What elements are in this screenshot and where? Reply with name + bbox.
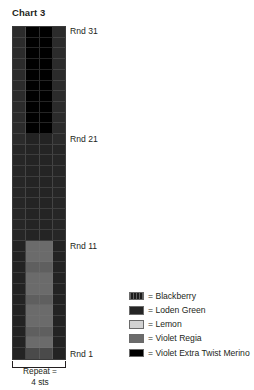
chart-cell [53,59,65,70]
chart-row [13,198,65,209]
legend-item: = Loden Green [129,303,254,317]
chart-cell [53,134,65,145]
chart-cell [26,305,39,316]
chart-cell [13,273,26,284]
chart-row [13,327,65,338]
chart-cell [26,188,39,199]
chart-cell [40,337,53,348]
chart-row [13,252,65,263]
chart-cell [26,91,39,102]
chart-cell [40,220,53,231]
legend-label: = Violet Extra Twist Merino [148,349,250,358]
chart-cell [40,166,53,177]
chart-cell [53,113,65,124]
chart-cell [40,27,53,38]
chart-cell [13,220,26,231]
chart-cell [26,113,39,124]
legend-swatch-icon [129,349,144,358]
chart-cell [53,48,65,59]
chart-cell [26,134,39,145]
chart-cell [26,327,39,338]
chart-cell [26,348,39,359]
chart-cell [40,327,53,338]
chart-cell [13,166,26,177]
chart-cell [53,145,65,156]
legend-label: = Violet Regia [148,334,202,343]
chart-cell [53,337,65,348]
chart-cell [13,155,26,166]
chart-row [13,145,65,156]
chart-cell [26,316,39,327]
chart-cell [40,134,53,145]
chart-cell [26,123,39,134]
chart-cell [40,305,53,316]
chart-cell [40,209,53,220]
chart-cell [26,230,39,241]
legend-label: = Lemon [148,320,182,329]
chart-cell [26,155,39,166]
legend-label: = Blackberry [148,292,196,301]
chart-cell [40,59,53,70]
chart-cell [53,27,65,38]
chart-grid [12,26,66,360]
chart-row [13,59,65,70]
legend-swatch-icon [129,306,144,315]
chart-cell [53,284,65,295]
chart-row [13,27,65,38]
legend-swatch-icon [129,334,144,343]
chart-cell [13,305,26,316]
chart-cell [13,209,26,220]
chart-cell [40,316,53,327]
chart-cell [13,113,26,124]
chart-cell [40,284,53,295]
chart-cell [13,59,26,70]
chart-cell [13,48,26,59]
chart-cell [53,166,65,177]
chart-row [13,70,65,81]
chart-cell [53,327,65,338]
legend-item: = Blackberry [129,289,254,303]
repeat-caption-line-1: Repeat = [0,366,80,377]
chart-row [13,316,65,327]
chart-cell [53,348,65,359]
chart-cell [13,198,26,209]
chart-row [13,155,65,166]
chart-cell [26,209,39,220]
chart-cell [13,295,26,306]
repeat-caption: Repeat = 4 sts [0,366,80,387]
chart-cell [26,166,39,177]
chart-cell [53,102,65,113]
chart-cell [13,316,26,327]
chart-cell [40,145,53,156]
chart-cell [26,145,39,156]
chart-row [13,38,65,49]
chart-row [13,177,65,188]
chart-cell [53,177,65,188]
chart-row [13,220,65,231]
chart-cell [40,113,53,124]
chart-cell [13,348,26,359]
chart-row [13,262,65,273]
chart-cell [26,273,39,284]
chart-row [13,337,65,348]
chart-row [13,123,65,134]
chart-cell [40,155,53,166]
chart-cell [40,102,53,113]
legend: = Blackberry= Loden Green= Lemon= Violet… [129,289,254,360]
chart-cell [40,38,53,49]
chart-cell [13,284,26,295]
chart-row [13,48,65,59]
chart-cell [13,70,26,81]
chart-cell [26,27,39,38]
chart-cell [40,177,53,188]
chart-row [13,102,65,113]
chart-cell [40,123,53,134]
chart-cell [53,305,65,316]
chart-cell [26,262,39,273]
chart-cell [13,27,26,38]
chart-cell [53,252,65,263]
chart-cell [13,230,26,241]
chart-cell [13,81,26,92]
chart-cell [53,209,65,220]
chart-row [13,348,65,359]
